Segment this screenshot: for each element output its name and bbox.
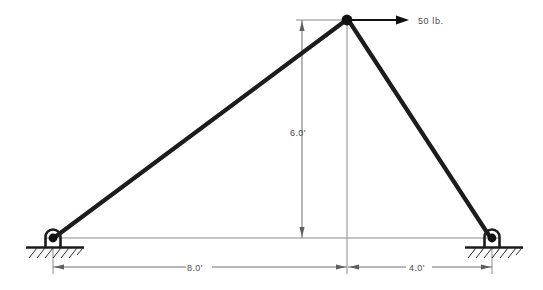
right-span-label: 4.0': [409, 263, 425, 273]
truss-diagram: 50 lb. 6.0' 8.0' 4.0': [0, 0, 543, 290]
left-span-label: 8.0': [187, 263, 203, 273]
height-label: 6.0': [290, 128, 306, 138]
load-label: 50 lb.: [418, 16, 444, 26]
height-dim-arrow-bottom: [299, 227, 304, 237]
left-support-pin: [49, 234, 58, 243]
height-dim-arrow-top: [299, 21, 304, 31]
left-span-arrow-right: [336, 264, 346, 269]
right-truss-member: [349, 21, 490, 237]
left-pin-support: [26, 230, 84, 258]
truss-diagram-canvas: 50 lb. 6.0' 8.0' 4.0': [0, 0, 543, 290]
left-span-arrow-left: [54, 264, 64, 269]
right-pin-support: [465, 230, 523, 258]
right-span-arrow-left: [349, 264, 359, 269]
right-span-arrow-right: [481, 264, 491, 269]
right-support-pin: [488, 234, 497, 243]
load-arrow-head: [396, 16, 409, 25]
